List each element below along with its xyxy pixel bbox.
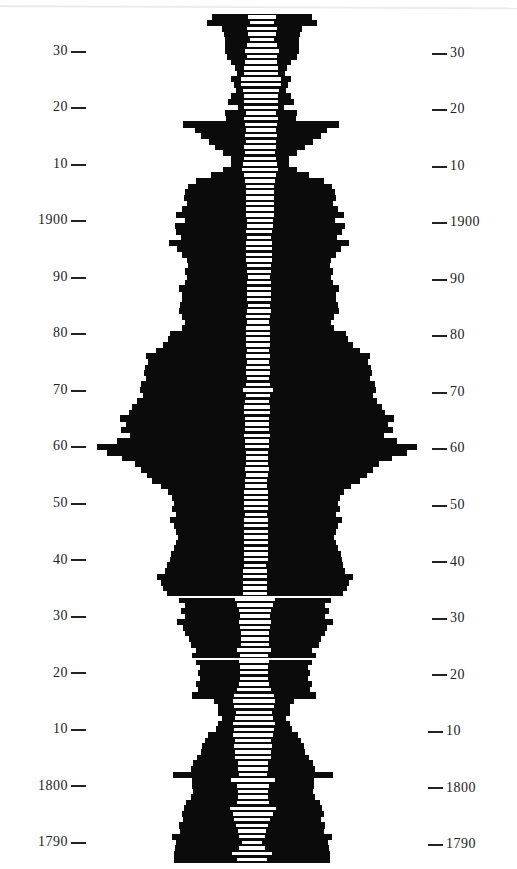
inner-bar	[248, 304, 270, 307]
tick-label: 1900	[450, 214, 480, 229]
inner-bar	[243, 592, 267, 595]
inner-bar	[246, 332, 270, 335]
inner-bar	[239, 609, 271, 612]
inner-bar	[239, 773, 267, 776]
inner-bar	[246, 456, 268, 459]
inner-bar	[239, 835, 265, 838]
tick-mark	[432, 618, 447, 620]
left-tick-1890: 90	[0, 270, 86, 284]
inner-bar	[246, 230, 272, 233]
inner-bar	[246, 213, 274, 216]
inner-bar	[247, 281, 271, 284]
inner-bar	[247, 377, 269, 380]
inner-bar	[238, 790, 268, 793]
inner-bar	[246, 462, 268, 465]
inner-bar	[243, 388, 273, 391]
group-separator	[150, 658, 380, 661]
inner-bar	[246, 207, 274, 210]
left-tick-1900: 1900	[0, 213, 86, 227]
inner-bar	[233, 733, 273, 736]
inner-bar	[239, 846, 265, 849]
inner-bar	[245, 417, 269, 420]
inner-bar	[246, 253, 272, 256]
inner-bar	[246, 196, 274, 199]
left-tick-1870: 70	[0, 383, 86, 397]
inner-bar	[233, 722, 275, 725]
inner-bar	[241, 643, 269, 646]
inner-bar	[244, 117, 278, 120]
inner-bar	[250, 38, 274, 41]
tick-label: 10	[53, 156, 68, 171]
tick-label: 70	[53, 382, 68, 397]
inner-bar	[244, 405, 270, 408]
inner-bar	[244, 530, 268, 533]
inner-bar	[238, 761, 268, 764]
inner-bar	[246, 343, 270, 346]
tick-mark	[428, 731, 443, 733]
inner-bar	[244, 552, 268, 555]
inner-bar	[241, 631, 269, 634]
inner-bar	[247, 349, 269, 352]
inner-bar	[245, 60, 277, 63]
tick-mark	[432, 53, 447, 55]
inner-bar	[239, 620, 271, 623]
inner-bar	[247, 309, 271, 312]
tick-label: 70	[450, 384, 465, 399]
right-tick-1860: 60	[432, 441, 465, 455]
inner-bar	[246, 111, 276, 114]
tick-label: 20	[53, 99, 68, 114]
inner-bar	[247, 264, 271, 267]
inner-bar	[247, 236, 271, 239]
inner-bar	[243, 162, 277, 165]
inner-bar	[233, 812, 273, 815]
tick-label: 50	[53, 495, 68, 510]
right-tick-1890: 90	[432, 272, 465, 286]
tick-label: 60	[450, 440, 465, 455]
inner-bar	[243, 586, 267, 589]
inner-bar	[234, 818, 270, 821]
inner-bar	[248, 275, 270, 278]
inner-bar	[235, 739, 271, 742]
inner-bar	[244, 434, 270, 437]
inner-bar	[237, 603, 273, 606]
inner-bar	[244, 507, 268, 510]
tick-mark	[71, 220, 86, 222]
tick-mark	[71, 164, 86, 166]
inner-bar	[247, 224, 273, 227]
tick-mark	[432, 109, 447, 111]
inner-bar	[240, 654, 268, 657]
tick-mark	[71, 446, 86, 448]
inner-bar	[248, 32, 276, 35]
inner-bar	[244, 66, 278, 69]
tick-label: 20	[450, 101, 465, 116]
tick-mark	[432, 392, 447, 394]
inner-bar	[247, 219, 273, 222]
inner-bar	[237, 801, 269, 804]
tick-mark	[432, 279, 447, 281]
inner-bar	[246, 315, 270, 318]
inner-bar	[233, 699, 275, 702]
tick-mark	[432, 674, 447, 676]
inner-bar	[235, 750, 271, 753]
inner-bar	[247, 287, 271, 290]
tick-label: 1800	[446, 780, 476, 795]
inner-bar	[246, 140, 276, 143]
right-tick-1900: 1900	[432, 215, 480, 229]
inner-bar	[234, 705, 274, 708]
inner-bar	[247, 292, 271, 295]
inner-bar	[247, 298, 271, 301]
tick-label: 30	[450, 610, 465, 625]
tick-mark	[432, 222, 447, 224]
inner-bar	[245, 467, 269, 470]
tick-label: 40	[53, 552, 68, 567]
left-tick-1820: 20	[0, 666, 86, 680]
inner-bar	[237, 648, 271, 651]
inner-bar	[244, 535, 268, 538]
tick-mark	[71, 729, 86, 731]
inner-bar	[235, 716, 273, 719]
left-tick-1880: 80	[0, 326, 86, 340]
tick-label: 60	[53, 438, 68, 453]
inner-bar	[245, 445, 269, 448]
left-tick-1830: 30	[0, 609, 86, 623]
inner-bar	[240, 677, 268, 680]
